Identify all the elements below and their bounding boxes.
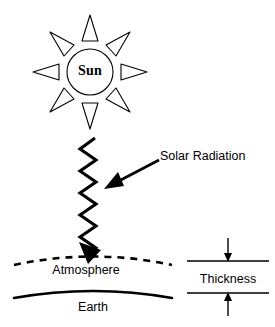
sun-label: Sun <box>0 64 180 78</box>
solar-radiation-diagram: Sun Solar Radiation Atmosphere Earth Thi… <box>0 0 275 327</box>
thickness-label: Thickness <box>187 273 269 286</box>
earth-arc <box>14 291 172 298</box>
solar-radiation-callout-arrow <box>104 160 159 189</box>
sun-ray-sw-icon <box>50 88 74 112</box>
sun-ray-se-icon <box>106 88 130 112</box>
earth-label: Earth <box>0 301 186 314</box>
callout-arrow-head-icon <box>104 172 124 189</box>
sun-ray-nw-icon <box>50 32 74 56</box>
sun-ray-n-icon <box>82 15 98 41</box>
radiation-zigzag-line <box>80 138 96 256</box>
solar-radiation-wave <box>79 138 101 264</box>
sun-ray-ne-icon <box>106 32 130 56</box>
sun-ray-s-icon <box>82 103 98 129</box>
solar-radiation-label: Solar Radiation <box>160 150 245 163</box>
callout-arrow-shaft <box>117 160 159 182</box>
atmosphere-label: Atmosphere <box>0 264 172 277</box>
